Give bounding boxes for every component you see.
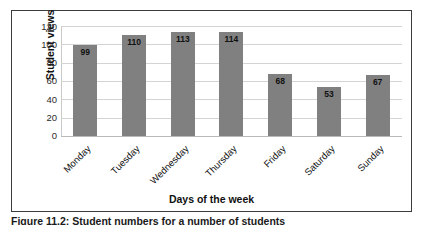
figure-caption: Figure 11.2: Student numbers for a numbe…	[11, 215, 411, 225]
x-tick-slot: Friday	[256, 139, 305, 197]
bar-slot: 110	[110, 26, 159, 136]
y-tick-label: 100	[23, 40, 57, 50]
y-tick-label: 40	[23, 95, 57, 105]
bar-series: 99 110 113 114	[61, 26, 402, 136]
x-axis-tick-labels: Monday Tuesday Wednesday Thursday Friday…	[61, 139, 413, 197]
x-tick-slot: Thursday	[207, 139, 256, 197]
x-tick-label-sunday: Sunday	[355, 143, 386, 174]
y-tick-label: 80	[23, 58, 57, 68]
bar-slot: 53	[305, 26, 354, 136]
y-tick-label: 0	[23, 131, 57, 141]
bar-value-label: 99	[81, 48, 90, 57]
y-axis-tick-labels: 120 100 80 60 40 20 0	[19, 26, 57, 136]
gridline-0	[61, 136, 402, 137]
plot-area: 99 110 113 114	[61, 26, 413, 136]
x-tick-slot: Sunday	[353, 139, 402, 197]
x-tick-label-friday: Friday	[262, 143, 288, 169]
y-tick-label: 20	[23, 113, 57, 123]
bar-value-label: 114	[225, 35, 239, 44]
x-tick-label-monday: Monday	[61, 143, 93, 175]
x-tick-label-tuesday: Tuesday	[109, 143, 142, 176]
chart-frame: Student views 120 100 80 60 40 20 0	[11, 10, 412, 212]
x-tick-label-saturday: Saturday	[302, 143, 337, 178]
y-tick-label: 60	[23, 76, 57, 86]
x-tick-slot: Saturday	[305, 139, 354, 197]
bar-saturday[interactable]: 53	[317, 87, 341, 136]
bar-friday[interactable]: 68	[268, 74, 292, 136]
bar-slot: 67	[353, 26, 402, 136]
bar-slot: 114	[207, 26, 256, 136]
bar-tuesday[interactable]: 110	[122, 35, 146, 136]
figure-container: Student views 120 100 80 60 40 20 0	[0, 0, 421, 225]
bar-monday[interactable]: 99	[73, 45, 97, 136]
bar-sunday[interactable]: 67	[366, 75, 390, 136]
x-tick-slot: Monday	[61, 139, 110, 197]
bar-wednesday[interactable]: 113	[171, 32, 195, 136]
bar-value-label: 67	[373, 78, 382, 87]
x-tick-slot: Tuesday	[110, 139, 159, 197]
bar-value-label: 113	[176, 35, 190, 44]
x-axis-title: Days of the week	[12, 193, 411, 205]
x-tick-slot: Wednesday	[158, 139, 207, 197]
bar-value-label: 53	[324, 90, 333, 99]
x-tick-label-thursday: Thursday	[203, 143, 239, 179]
bar-slot: 113	[158, 26, 207, 136]
y-tick-label: 120	[23, 22, 57, 32]
bar-thursday[interactable]: 114	[219, 32, 243, 137]
bar-slot: 68	[256, 26, 305, 136]
bar-value-label: 68	[275, 77, 284, 86]
bar-slot: 99	[61, 26, 110, 136]
bar-value-label: 110	[127, 38, 141, 47]
